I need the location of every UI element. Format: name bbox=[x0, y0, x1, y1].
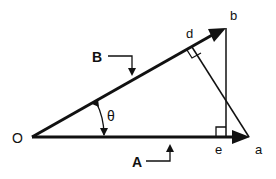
label-a-pointer bbox=[146, 144, 174, 161]
label-b-pointer bbox=[108, 56, 136, 76]
perpendicular-a-d bbox=[192, 47, 249, 137]
label-point-a: a bbox=[255, 142, 263, 157]
label-point-b: b bbox=[230, 8, 237, 23]
label-vector-b: B bbox=[92, 49, 102, 65]
label-theta: θ bbox=[107, 108, 115, 124]
vector-b-arrow bbox=[32, 28, 226, 137]
vector-diagram: O B A θ b d e a bbox=[0, 0, 276, 179]
label-origin: O bbox=[12, 130, 23, 146]
label-point-e: e bbox=[215, 142, 222, 157]
label-vector-a: A bbox=[132, 154, 142, 170]
label-point-d: d bbox=[186, 26, 193, 41]
